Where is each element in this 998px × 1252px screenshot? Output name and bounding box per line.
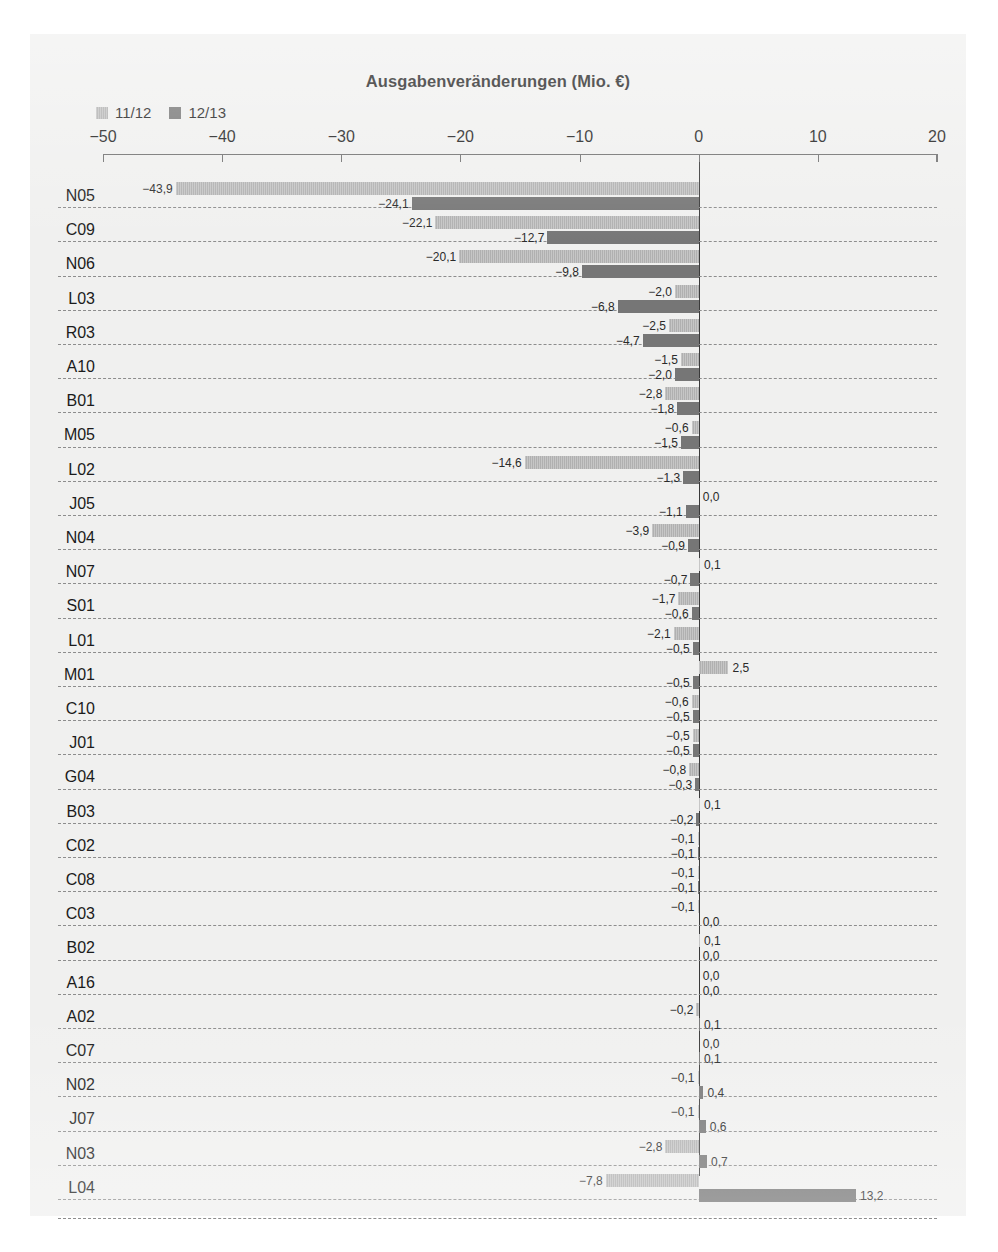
row-label-C02: C02 — [43, 837, 95, 855]
chart-legend: 11/12 12/13 — [96, 104, 226, 121]
value-label-L03-11-12: −2,0 — [648, 285, 672, 299]
bar-L01-11-12 — [674, 627, 699, 640]
bar-A10-11-12 — [681, 353, 699, 366]
bar-B03-12-13 — [696, 813, 698, 826]
legend-item-0: 11/12 — [96, 104, 151, 121]
row-separator — [58, 241, 937, 242]
value-label-C10-11-12: −0,6 — [665, 695, 689, 709]
row-label-L04: L04 — [43, 1179, 95, 1197]
row-label-N06: N06 — [43, 255, 95, 273]
row-separator — [58, 652, 937, 653]
row-label-C09: C09 — [43, 221, 95, 239]
row-separator — [58, 754, 937, 755]
row-separator — [58, 378, 937, 379]
bar-C10-11-12 — [692, 695, 699, 708]
x-axis-line — [103, 154, 937, 155]
value-label-C07-11-12: 0,0 — [703, 1037, 720, 1051]
row-label-J01: J01 — [43, 734, 95, 752]
bar-J05-12-13 — [686, 505, 699, 518]
row-label-N05: N05 — [43, 187, 95, 205]
bar-N06-11-12 — [459, 250, 698, 263]
value-label-A02-12-13: 0,1 — [704, 1018, 721, 1032]
bar-C10-12-13 — [693, 710, 699, 723]
value-label-J01-12-13: −0,5 — [666, 744, 690, 758]
bar-N04-12-13 — [688, 539, 699, 552]
row-label-N07: N07 — [43, 563, 95, 581]
row-separator — [58, 891, 937, 892]
bar-G04-11-12 — [689, 763, 699, 776]
bar-G04-12-13 — [695, 778, 699, 791]
bar-C08-12-13 — [698, 881, 700, 894]
row-label-M05: M05 — [43, 426, 95, 444]
bar-L03-12-13 — [618, 300, 699, 313]
x-tick-5 — [699, 154, 700, 162]
bar-L02-11-12 — [525, 456, 699, 469]
value-label-J07-11-12: −0,1 — [671, 1105, 695, 1119]
row-label-A02: A02 — [43, 1008, 95, 1026]
x-tick-2 — [341, 154, 342, 162]
value-label-N07-12-13: −0,7 — [664, 573, 688, 587]
row-separator — [58, 789, 937, 790]
row-label-B01: B01 — [43, 392, 95, 410]
x-tick-label-0: −50 — [89, 128, 116, 146]
bar-M01-12-13 — [693, 676, 699, 689]
row-label-B03: B03 — [43, 803, 95, 821]
value-label-L02-11-12: −14,6 — [491, 456, 521, 470]
row-label-S01: S01 — [43, 597, 95, 615]
bar-C02-12-13 — [698, 847, 700, 860]
value-label-N05-12-13: −24,1 — [378, 197, 408, 211]
row-label-C10: C10 — [43, 700, 95, 718]
value-label-M01-11-12: 2,5 — [733, 661, 750, 675]
x-tick-label-6: 10 — [809, 128, 827, 146]
value-label-A10-11-12: −1,5 — [654, 353, 678, 367]
bar-C09-12-13 — [547, 231, 698, 244]
value-label-N02-12-13: 0,4 — [707, 1086, 724, 1100]
bar-L03-11-12 — [675, 285, 699, 298]
value-label-C02-11-12: −0,1 — [671, 832, 695, 846]
row-separator — [58, 618, 937, 619]
value-label-J05-11-12: 0,0 — [703, 490, 720, 504]
bar-A10-12-13 — [675, 368, 699, 381]
legend-swatch-icon-0 — [96, 107, 108, 119]
row-separator — [58, 447, 937, 448]
x-tick-7 — [937, 154, 938, 162]
row-label-N04: N04 — [43, 529, 95, 547]
value-label-L03-12-13: −6,8 — [591, 300, 615, 314]
row-separator — [58, 1062, 937, 1063]
bar-L02-12-13 — [683, 471, 698, 484]
value-label-B01-12-13: −1,8 — [651, 402, 675, 416]
row-label-L03: L03 — [43, 290, 95, 308]
row-separator — [58, 344, 937, 345]
row-separator — [58, 686, 937, 687]
legend-item-1: 12/13 — [169, 104, 226, 121]
bar-B01-11-12 — [665, 387, 698, 400]
value-label-B01-11-12: −2,8 — [639, 387, 663, 401]
chart-panel: Ausgabenveränderungen (Mio. €) 11/12 12/… — [30, 34, 966, 1216]
value-label-A16-12-13: 0,0 — [703, 984, 720, 998]
x-tick-label-3: −20 — [447, 128, 474, 146]
row-label-L01: L01 — [43, 632, 95, 650]
row-label-N03: N03 — [43, 1145, 95, 1163]
value-label-R03-12-13: −4,7 — [616, 334, 640, 348]
value-label-N04-12-13: −0,9 — [661, 539, 685, 553]
bar-N03-11-12 — [665, 1140, 698, 1153]
x-tick-4 — [580, 154, 581, 162]
value-label-M05-11-12: −0,6 — [665, 421, 689, 435]
value-label-N06-11-12: −20,1 — [426, 250, 456, 264]
bar-N07-11-12 — [699, 558, 701, 571]
bar-J01-11-12 — [693, 729, 699, 742]
bar-N04-11-12 — [652, 524, 698, 537]
value-label-L04-11-12: −7,8 — [579, 1174, 603, 1188]
value-label-J05-12-13: −1,1 — [659, 505, 683, 519]
row-label-C08: C08 — [43, 871, 95, 889]
x-tick-6 — [818, 154, 819, 162]
bar-L01-12-13 — [693, 642, 699, 655]
legend-label-0: 11/12 — [115, 104, 151, 121]
value-label-C02-12-13: −0,1 — [671, 847, 695, 861]
value-label-B03-12-13: −0,2 — [670, 813, 694, 827]
value-label-L01-12-13: −0,5 — [666, 642, 690, 656]
row-separator — [58, 549, 937, 550]
row-separator — [58, 1165, 937, 1166]
value-label-C08-11-12: −0,1 — [671, 866, 695, 880]
chart-title: Ausgabenveränderungen (Mio. €) — [30, 72, 966, 91]
